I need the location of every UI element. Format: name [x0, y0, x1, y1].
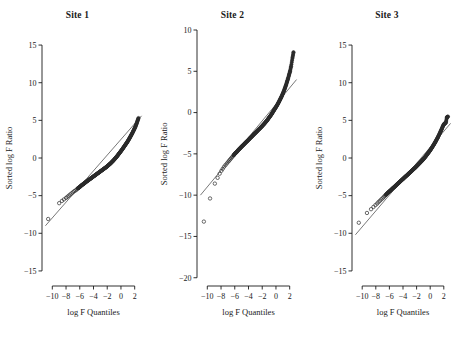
panel-site-1: Site 1 −15−10−5051015−10−8−6−4−202log F … [0, 0, 155, 345]
x-tick-label: −8 [62, 292, 71, 301]
data-point [365, 211, 368, 214]
x-tick-label: 2 [442, 292, 446, 301]
data-point [208, 197, 211, 200]
x-tick-label: −4 [244, 292, 253, 301]
plot-site-3: −15−10−5051015−10−8−6−4−202log F Quantil… [310, 0, 464, 345]
panel-site-3: Site 3 −15−10−5051015−10−8−6−4−202log F … [310, 0, 464, 345]
x-tick-label: −4 [399, 292, 408, 301]
x-tick-label: −6 [231, 292, 240, 301]
data-point [289, 66, 292, 69]
y-axis-label: Sorted log F Ratio [314, 127, 324, 190]
plot-site-1: −15−10−5051015−10−8−6−4−202log F Quantil… [0, 0, 155, 345]
y-tick-label: 15 [29, 41, 37, 50]
x-tick-label: 2 [288, 292, 292, 301]
x-tick-label: −10 [46, 292, 59, 301]
y-tick-label: 10 [184, 26, 192, 35]
x-tick-label: −10 [201, 292, 214, 301]
y-tick-label: −20 [179, 274, 192, 283]
y-tick-label: −10 [334, 229, 347, 238]
y-tick-label: 0 [33, 154, 37, 163]
y-axis-label: Sorted log F Ratio [4, 127, 14, 190]
y-tick-label: 0 [188, 108, 192, 117]
x-axis-label: log F Quantiles [67, 307, 119, 317]
x-axis-label: log F Quantiles [377, 307, 429, 317]
reference-line [45, 116, 141, 226]
x-tick-label: −8 [372, 292, 381, 301]
data-point [291, 59, 294, 62]
x-tick-label: 0 [428, 292, 432, 301]
x-tick-label: −4 [89, 292, 98, 301]
y-tick-label: 10 [339, 79, 347, 88]
y-tick-label: −5 [338, 191, 347, 200]
y-tick-label: −15 [334, 267, 347, 276]
data-point [446, 115, 449, 118]
data-points [202, 51, 295, 224]
y-tick-label: 10 [29, 79, 37, 88]
y-tick-label: −5 [183, 150, 192, 159]
data-point [372, 205, 375, 208]
data-point [292, 52, 295, 55]
y-tick-label: 0 [343, 154, 347, 163]
panel-site-2: Site 2 −20−15−10−50510−10−8−6−4−202log F… [155, 0, 310, 345]
y-tick-label: −10 [179, 191, 192, 200]
data-point [46, 217, 49, 220]
x-tick-label: −2 [258, 292, 267, 301]
x-tick-label: −6 [385, 292, 394, 301]
data-point [216, 176, 219, 179]
y-tick-label: −10 [24, 229, 37, 238]
y-tick-label: 15 [339, 41, 347, 50]
x-tick-label: 0 [274, 292, 278, 301]
x-tick-label: −8 [217, 292, 226, 301]
data-point [357, 221, 360, 224]
y-tick-label: 5 [188, 67, 192, 76]
x-tick-label: −2 [103, 292, 112, 301]
x-tick-label: −10 [356, 292, 369, 301]
axes [42, 45, 135, 286]
x-tick-label: −2 [412, 292, 421, 301]
x-tick-label: −6 [76, 292, 85, 301]
data-points [357, 115, 449, 225]
y-axis-label: Sorted log F Ratio [159, 123, 169, 186]
y-tick-label: 5 [33, 116, 37, 125]
data-points [46, 116, 140, 220]
y-tick-label: −15 [24, 267, 37, 276]
data-point [213, 182, 216, 185]
axes [197, 30, 290, 286]
y-tick-label: 5 [343, 116, 347, 125]
y-tick-label: −5 [28, 191, 37, 200]
plot-site-2: −20−15−10−50510−10−8−6−4−202log F Quanti… [155, 0, 310, 345]
x-axis-label: log F Quantiles [222, 307, 274, 317]
figure-root: Site 1 −15−10−5051015−10−8−6−4−202log F … [0, 0, 464, 345]
axes [352, 45, 444, 286]
data-point [137, 117, 140, 120]
data-point [202, 220, 205, 223]
x-tick-label: 0 [119, 292, 123, 301]
y-tick-label: −15 [179, 232, 192, 241]
x-tick-label: 2 [133, 292, 137, 301]
